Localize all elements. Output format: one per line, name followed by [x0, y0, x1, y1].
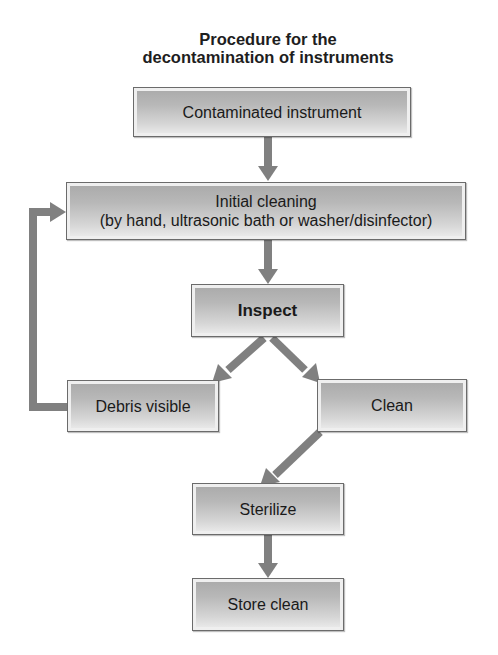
arrow-inspect-to-debris [228, 338, 264, 370]
node-label: Store clean [228, 595, 309, 614]
node-label: Contaminated instrument [183, 103, 362, 122]
arrow-contaminated-to-initial [258, 137, 278, 181]
arrow-debris-to-initial [29, 202, 67, 411]
node-clean: Clean [317, 379, 467, 432]
node-label: Sterilize [240, 500, 297, 519]
node-label-line1: Initial cleaning [215, 192, 316, 211]
arrow-clean-to-sterilize [275, 432, 320, 475]
node-initial-cleaning: Initial cleaning (by hand, ultrasonic ba… [66, 182, 466, 240]
node-store-clean: Store clean [192, 578, 344, 631]
node-sterilize: Sterilize [192, 483, 344, 535]
arrow-initial-to-inspect [258, 240, 278, 284]
node-label-line2: (by hand, ultrasonic bath or washer/disi… [100, 211, 433, 230]
node-label: Clean [371, 396, 413, 415]
arrow-inspect-to-clean [272, 338, 305, 370]
node-label: Debris visible [95, 397, 190, 416]
node-label: Inspect [238, 301, 298, 320]
node-debris-visible: Debris visible [67, 380, 219, 432]
node-inspect: Inspect [191, 284, 344, 337]
node-contaminated-instrument: Contaminated instrument [133, 87, 411, 137]
